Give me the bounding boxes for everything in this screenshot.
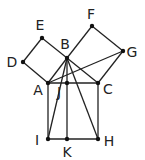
segment-AG — [48, 51, 123, 83]
point-D — [21, 60, 25, 64]
segment-DE — [23, 38, 42, 62]
label-A: A — [33, 82, 43, 98]
label-E: E — [36, 17, 45, 33]
point-G — [121, 49, 125, 53]
point-F — [90, 24, 94, 28]
label-C: C — [103, 81, 113, 97]
point-J — [65, 81, 69, 85]
label-B: B — [60, 36, 70, 52]
point-B — [65, 56, 69, 60]
label-H: H — [104, 133, 115, 149]
segment-BF — [67, 26, 92, 58]
point-K — [65, 137, 69, 141]
segment-AD — [23, 62, 48, 83]
point-I — [46, 137, 50, 141]
label-D: D — [7, 54, 18, 70]
label-K: K — [62, 144, 72, 160]
point-H — [96, 137, 100, 141]
label-J: J — [56, 84, 61, 100]
label-G: G — [127, 44, 138, 60]
label-F: F — [87, 6, 95, 22]
segment-FG — [92, 26, 123, 51]
point-A — [46, 81, 50, 85]
diagram-svg: A B C D E F G H I J K — [0, 0, 145, 160]
pythagorean-diagram: A B C D E F G H I J K — [0, 0, 145, 160]
point-E — [40, 36, 44, 40]
point-C — [96, 81, 100, 85]
label-I: I — [35, 132, 39, 148]
